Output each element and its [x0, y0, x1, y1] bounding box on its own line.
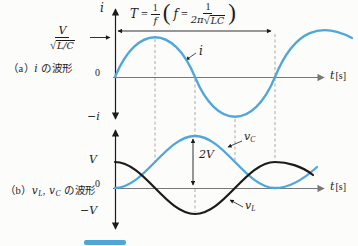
plot-b-time-axis-label: t[s]: [330, 181, 346, 192]
lc-oscillation-waveform-figure: T = 1f ( f = 12π√LC ) V √L/C （a）i の波形 i …: [0, 0, 358, 246]
i-curve-label: i: [199, 45, 203, 57]
formula-f: f: [173, 7, 177, 21]
plot-a-y-axis-label: i: [100, 2, 104, 14]
formula-T: T: [130, 7, 138, 21]
amplitude-label: V √L/C: [50, 25, 75, 51]
plot-a-time-axis-label: t[s]: [330, 70, 346, 81]
vl-label-pointer-arrow: [230, 200, 243, 207]
quarter-period-dashed-guides: [155, 34, 275, 212]
formula-open-paren: (: [163, 3, 171, 24]
vc-curve: [115, 136, 317, 188]
i-label-pointer-arrow: [186, 53, 196, 60]
plot-b-origin-label: 0: [95, 179, 100, 189]
formula-equals-2: =: [181, 7, 188, 22]
formula-resonance-fraction: 12π√LC: [191, 2, 226, 26]
current-i-curve: [115, 30, 352, 117]
vl-curve-label: vL: [245, 200, 255, 213]
two-v-span-label: 2V: [199, 149, 214, 160]
vc-curve-label: vC: [244, 131, 255, 144]
plot-a-origin-label: 0: [95, 68, 100, 78]
formula-equals: =: [141, 7, 148, 22]
bottom-highlight-bar: [84, 240, 126, 245]
v-negative-tick-label: −V: [80, 205, 97, 216]
plot-b-caption: （b）vL, vC の波形: [5, 182, 96, 198]
period-formula: T = 1f ( f = 12π√LC ): [130, 1, 236, 27]
plot-a-neg-y-axis-label: −i: [87, 111, 100, 122]
v-positive-tick-label: V: [89, 154, 97, 165]
formula-one-over-f: 1f: [151, 3, 160, 26]
plot-a-caption: （a）i の波形: [8, 60, 73, 75]
formula-close-paren: ): [228, 3, 236, 24]
